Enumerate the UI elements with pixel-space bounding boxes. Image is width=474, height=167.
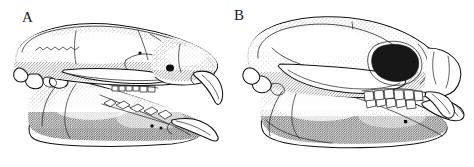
figure-container: A (0, 0, 474, 167)
panel-label-a: A (22, 9, 33, 25)
skull-figure-svg: A (0, 0, 474, 167)
infraorbital-foramen-a (166, 65, 174, 72)
panel-label-b: B (234, 7, 244, 23)
mental-foramen-b (404, 120, 407, 123)
mental-foramen-a-1 (150, 124, 153, 127)
mental-foramen-a-2 (160, 127, 163, 130)
frontal-foramen-a (138, 51, 141, 54)
maxillary-foramen-b (413, 61, 416, 64)
upper-cheek-tooth-row-a (110, 85, 158, 92)
